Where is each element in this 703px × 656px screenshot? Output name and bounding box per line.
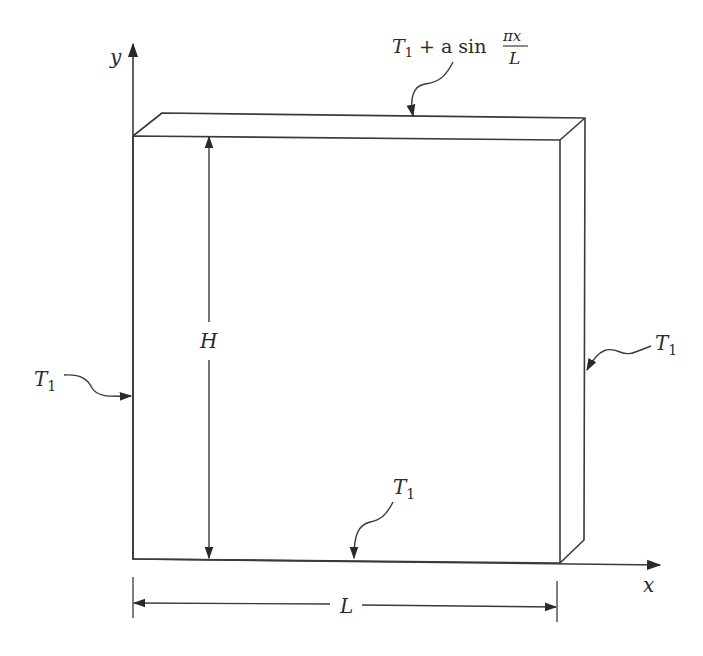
top-bc-plus: + a sin — [413, 35, 486, 57]
height-label: H — [199, 329, 218, 353]
x-axis-label: x — [643, 573, 654, 597]
left-boundary-condition: T1 — [34, 367, 56, 394]
top-bc-arrow — [412, 62, 453, 116]
bottom-boundary-condition: T1 — [393, 475, 415, 502]
y-axis-label: y — [109, 45, 122, 69]
plate-diagram: y x H L T1 + a sin πx L T1 — [0, 0, 703, 656]
top-boundary-condition: T1 + a sin πx L — [392, 27, 528, 68]
left-bc-arrow — [64, 375, 131, 396]
right-bc-arrow — [587, 346, 651, 370]
plate-front-face — [133, 136, 560, 563]
right-boundary-condition: T1 — [655, 331, 677, 358]
plate-right-face — [560, 118, 585, 563]
svg-text:T1 + a sin: T1 + a sin — [392, 35, 486, 60]
top-bc-frac-den: L — [508, 48, 520, 68]
length-label: L — [339, 594, 353, 618]
top-bc-frac-num: πx — [502, 27, 522, 45]
bottom-bc-arrow — [354, 502, 393, 558]
top-bc-sub: 1 — [405, 45, 413, 60]
